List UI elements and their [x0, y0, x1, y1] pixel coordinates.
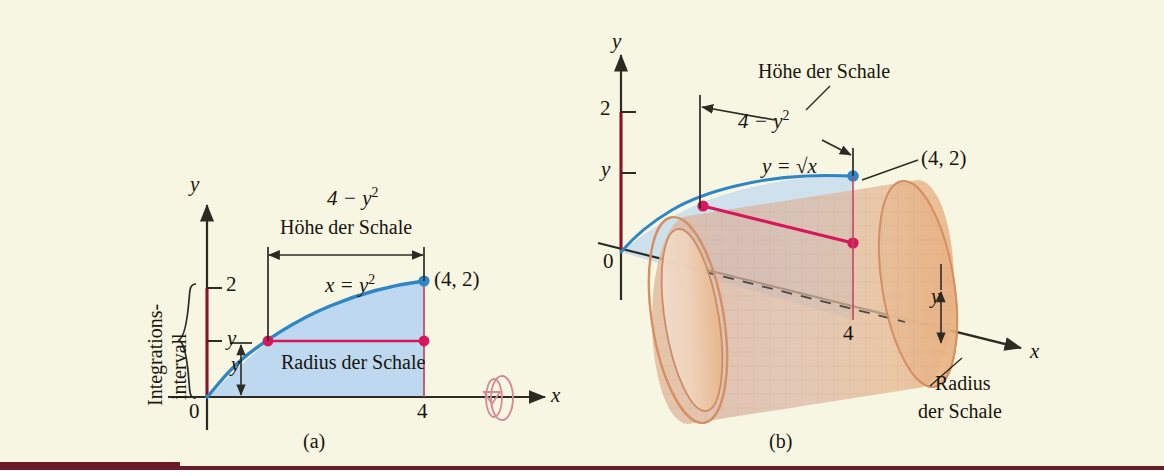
radius-caption-line1-b: Radius — [935, 372, 991, 394]
radius-caption-a: Radius der Schale — [281, 351, 425, 373]
y-tick-label-2-b: 2 — [600, 97, 611, 121]
height-arrow-right-b — [822, 140, 851, 155]
axis-x-label-b: x — [1030, 340, 1039, 364]
caption-a: (a) — [303, 430, 325, 452]
x-tick-label-4-b: 4 — [843, 322, 854, 346]
point-label-a: (4, 2) — [434, 268, 480, 292]
curve-equation-exponent-a: 2 — [368, 272, 375, 287]
point-label-b: (4, 2) — [921, 147, 967, 171]
radius-marker-a: y — [231, 353, 240, 377]
axis-x-label-a: x — [551, 384, 560, 408]
axis-y-label-b: y — [612, 30, 621, 54]
y-tick-label-y-a: y — [227, 327, 236, 351]
height-expression-exponent-a: 2 — [372, 185, 379, 200]
panel-a-graph — [168, 205, 545, 430]
y-tick-label-y-b: y — [601, 158, 610, 182]
height-expression-b: 4 − y2 — [738, 108, 789, 134]
radius-marker-b: y — [931, 285, 940, 309]
height-expression-text-b: 4 − y — [738, 109, 783, 133]
axis-y-label-a: y — [190, 173, 199, 197]
curve-equation-a: x = y2 — [325, 272, 375, 298]
y-tick-label-2-a: 2 — [226, 273, 237, 297]
height-expression-text-a: 4 − y — [327, 186, 372, 210]
origin-label-b: 0 — [603, 250, 614, 274]
figure-page: y x 0 2 y 4 4 − y2 Höhe der Schale x = y… — [0, 0, 1164, 476]
page-bottom-fill — [0, 470, 1164, 476]
integration-interval-label-line1-a: Integrations- — [144, 304, 167, 406]
shell-right-endpoint-a — [419, 336, 430, 347]
origin-label-a: 0 — [189, 400, 200, 424]
height-caption-a: Höhe der Schale — [280, 216, 412, 238]
radius-caption-line2-b: der Schale — [918, 400, 1002, 422]
point-label-leader-b — [862, 160, 918, 180]
height-expression-exponent-b: 2 — [783, 108, 790, 123]
x-tick-label-4-a: 4 — [417, 400, 428, 424]
integration-interval-label-line2-a: intervall — [168, 333, 191, 400]
curve-equation-b: y = √x — [762, 155, 817, 179]
shell-left-endpoint-b — [697, 200, 708, 211]
height-caption-b: Höhe der Schale — [758, 60, 890, 82]
height-caption-leader-b — [806, 86, 830, 110]
caption-b: (b) — [769, 430, 792, 452]
region-under-curve-a — [207, 281, 424, 397]
height-expression-a: 4 − y2 — [327, 185, 378, 211]
curve-equation-text-a: x = y — [325, 273, 368, 297]
